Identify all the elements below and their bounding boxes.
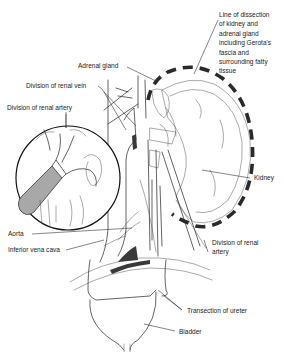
leader-adrenal (127, 67, 158, 82)
label-line-of-dissection: Line of dissection of kidney and adrenal… (219, 10, 271, 76)
magnified-inset (16, 112, 120, 230)
leader-renal-vein (98, 86, 136, 130)
label-kidney: Kidney (254, 173, 274, 182)
anatomy-figure: Line of dissection of kidney and adrenal… (0, 0, 284, 352)
label-aorta: Aorta (8, 229, 24, 238)
leader-aorta (32, 228, 132, 234)
label-bladder: Bladder (179, 327, 202, 336)
label-adrenal-gland: Adrenal gland (78, 61, 118, 70)
leader-dissection (194, 20, 218, 74)
label-inferior-vena-cava: Inferior vena cava (8, 245, 60, 254)
label-transection-ureter: Transection of ureter (187, 306, 247, 315)
leader-ureter (158, 290, 182, 310)
leader-kidney (202, 170, 250, 178)
label-division-renal-artery-left: Division of renal artery (7, 103, 72, 112)
leader-ivc (66, 240, 104, 250)
label-division-renal-artery-right: Division of renal artery (212, 238, 258, 257)
kidney-drawing (140, 80, 251, 256)
label-division-renal-vein: Division of renal vein (26, 81, 86, 90)
leader-bladder (144, 324, 175, 331)
